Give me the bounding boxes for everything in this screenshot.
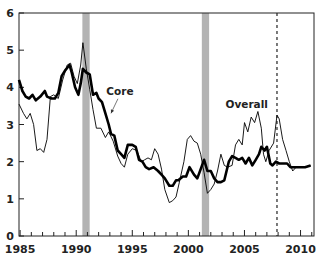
label-core: Core [106, 85, 133, 97]
y-tick-label: 3 [6, 119, 14, 132]
x-tick-label: 1990 [61, 243, 92, 256]
y-tick-label: 6 [6, 7, 14, 20]
label-overall: Overall [226, 98, 268, 110]
x-axis: 198519901995200020052010 [5, 230, 316, 256]
y-tick-label: 0 [6, 230, 14, 243]
y-tick-label: 5 [6, 44, 14, 57]
x-tick-label: 1985 [5, 243, 36, 256]
data-series [19, 43, 311, 203]
y-tick-label: 4 [6, 81, 14, 94]
x-tick-label: 2010 [285, 243, 316, 256]
x-tick-label: 2005 [229, 243, 260, 256]
plot-frame [19, 13, 314, 236]
y-axis: 0123456 [6, 7, 24, 243]
x-tick-label: 1995 [117, 243, 148, 256]
y-tick-label: 1 [6, 193, 14, 206]
recession-band [202, 13, 209, 236]
series-line-core [19, 65, 311, 186]
x-tick-label: 2000 [173, 243, 204, 256]
y-tick-label: 2 [6, 156, 14, 169]
inflation-chart: 198519901995200020052010 0123456 CoreOve… [0, 0, 323, 258]
series-labels: CoreOverall [106, 85, 268, 114]
recession-shading [82, 13, 209, 236]
